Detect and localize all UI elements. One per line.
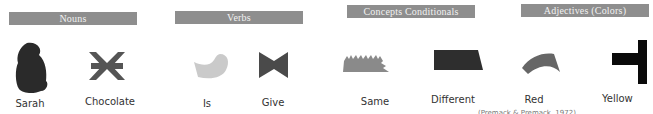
label-red: Red bbox=[499, 94, 569, 105]
asterisk-shape-icon bbox=[87, 50, 127, 82]
blob-shape-icon bbox=[13, 41, 49, 96]
label-same: Same bbox=[340, 96, 410, 107]
label-yellow: Yellow bbox=[602, 93, 653, 104]
trapezoid-shape-icon bbox=[432, 50, 484, 72]
label-chocolate: Chocolate bbox=[75, 96, 145, 107]
curved-shape-icon bbox=[190, 52, 230, 80]
header-nouns: Nouns bbox=[9, 12, 137, 25]
label-is: Is bbox=[172, 98, 242, 109]
label-different: Different bbox=[418, 94, 488, 105]
arc-shape-icon bbox=[520, 50, 562, 78]
header-verbs: Verbs bbox=[175, 11, 303, 24]
serrated-shape-icon bbox=[341, 53, 391, 74]
citation: (Premack & Premack, 1972) bbox=[478, 106, 576, 114]
bowtie-shape-icon bbox=[259, 52, 289, 78]
label-sarah: Sarah bbox=[0, 98, 65, 109]
header-concepts-conditionals: Concepts Conditionals bbox=[347, 5, 475, 18]
label-give: Give bbox=[238, 97, 308, 108]
t-shape-icon bbox=[612, 40, 647, 84]
header-adjectives-colors: Adjectives (Colors) bbox=[521, 4, 649, 17]
